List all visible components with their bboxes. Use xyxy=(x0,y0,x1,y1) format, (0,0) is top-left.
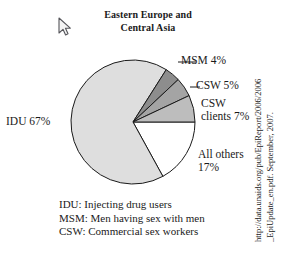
legend-item-csw: CSW: Commercial sex workers xyxy=(59,225,239,239)
source-citation: http://data.unaids.org/pub/EpiReport/200… xyxy=(252,36,280,242)
pie-label-csw-clients-line-1: CSW xyxy=(201,97,226,109)
pie-label-csw-clients-line-2: clients 7% xyxy=(201,110,249,122)
pie-label-all-others-line-2: 17% xyxy=(198,161,219,173)
legend-item-msm: MSM: Men having sex with men xyxy=(59,212,239,226)
pie-label-idu: IDU 67% xyxy=(6,115,50,128)
legend-abbreviations: IDU: Injecting drug users MSM: Men havin… xyxy=(59,198,239,239)
source-citation-line-1: http://data.unaids.org/pub/EpiReport/200… xyxy=(252,36,264,242)
legend-item-idu: IDU: Injecting drug users xyxy=(59,198,239,212)
pie-label-all-others: All others 17% xyxy=(198,148,260,174)
figure-container: Eastern Europe and Central Asia IDU 67% … xyxy=(0,0,294,259)
figure-caption-clipped xyxy=(18,251,278,259)
source-citation-line-2: _EpiUpdate_en.pdf. September, 2007. xyxy=(264,36,276,242)
mouse-pointer-arrow-icon xyxy=(57,17,73,37)
pie-slice-group xyxy=(71,60,195,184)
pie-label-msm: MSM 4% xyxy=(181,54,226,67)
pie-label-all-others-line-1: All others xyxy=(198,148,244,160)
pie-label-csw: CSW 5% xyxy=(196,79,239,92)
